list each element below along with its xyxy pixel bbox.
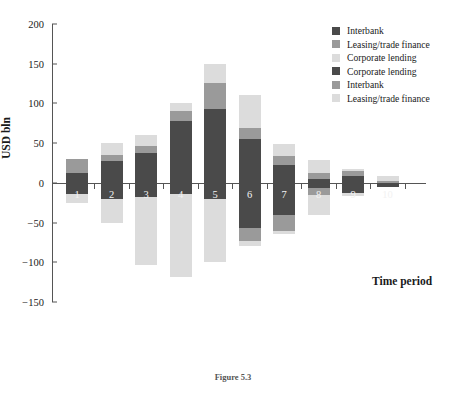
y-tick-mark bbox=[52, 63, 57, 64]
bar-column[interactable]: 1 bbox=[66, 24, 88, 302]
y-tick-label: 150 bbox=[28, 58, 44, 69]
legend-label: Corporate lending bbox=[347, 52, 417, 63]
x-tick-mark bbox=[232, 183, 233, 189]
bar-segment[interactable] bbox=[377, 176, 399, 182]
bar-column[interactable]: 8 bbox=[308, 24, 330, 302]
bar-category-label: 2 bbox=[101, 190, 123, 201]
bar-category-label: 6 bbox=[239, 190, 261, 201]
y-tick-label: −150 bbox=[22, 297, 44, 308]
bar-segment[interactable] bbox=[273, 144, 295, 156]
y-tick-label: 0 bbox=[39, 177, 44, 188]
bar-category-label: 7 bbox=[273, 190, 295, 201]
bar-segment[interactable] bbox=[66, 159, 88, 173]
bar-segment[interactable] bbox=[342, 169, 364, 171]
y-axis-line bbox=[52, 24, 53, 302]
bar-segment[interactable] bbox=[204, 199, 226, 263]
bar-segment[interactable] bbox=[135, 135, 157, 145]
bar-segment[interactable] bbox=[66, 173, 88, 183]
chart-figure: USD bln Time period 200150100500−50−100−… bbox=[0, 0, 466, 397]
bar-segment[interactable] bbox=[170, 103, 192, 111]
bar-category-label: 5 bbox=[204, 190, 226, 201]
bar-segment[interactable] bbox=[135, 146, 157, 154]
bar-category-label: 1 bbox=[66, 190, 88, 201]
x-tick-mark bbox=[129, 183, 130, 189]
bar-category-label: 10 bbox=[377, 190, 399, 201]
y-tick-mark bbox=[52, 143, 57, 144]
bar-segment[interactable] bbox=[170, 121, 192, 183]
legend-label: Interbank bbox=[347, 79, 384, 90]
x-tick-mark bbox=[198, 183, 199, 189]
bar-segment[interactable] bbox=[239, 139, 261, 183]
bar-segment[interactable] bbox=[308, 173, 330, 179]
bar-segment[interactable] bbox=[204, 109, 226, 183]
bar-segment[interactable] bbox=[101, 199, 123, 224]
x-tick-mark bbox=[336, 183, 337, 189]
bar-segment[interactable] bbox=[204, 83, 226, 109]
y-axis-title: USD bln bbox=[0, 117, 12, 159]
bar-segment[interactable] bbox=[342, 176, 364, 183]
chart-legend: InterbankLeasing/trade financeCorporate … bbox=[332, 24, 464, 105]
x-tick-mark bbox=[405, 183, 406, 189]
y-tick-label: 200 bbox=[28, 19, 44, 30]
x-tick-mark bbox=[370, 183, 371, 189]
legend-item[interactable]: Leasing/trade finance bbox=[332, 92, 464, 106]
legend-swatch-icon bbox=[332, 94, 340, 102]
bar-segment[interactable] bbox=[135, 197, 157, 265]
bar-segment[interactable] bbox=[239, 241, 261, 246]
legend-label: Leasing/trade finance bbox=[347, 93, 430, 104]
bar-segment[interactable] bbox=[101, 143, 123, 155]
bar-segment[interactable] bbox=[273, 215, 295, 232]
y-tick-mark bbox=[52, 222, 57, 223]
legend-item[interactable]: Leasing/trade finance bbox=[332, 38, 464, 52]
bar-column[interactable]: 5 bbox=[204, 24, 226, 302]
bar-column[interactable]: 2 bbox=[101, 24, 123, 302]
y-tick-mark bbox=[52, 103, 57, 104]
legend-swatch-icon bbox=[332, 67, 340, 75]
bar-column[interactable]: 3 bbox=[135, 24, 157, 302]
bar-category-label: 9 bbox=[342, 190, 364, 201]
bar-segment[interactable] bbox=[273, 231, 295, 233]
y-tick-label: 50 bbox=[34, 138, 45, 149]
y-tick-mark bbox=[52, 24, 57, 25]
y-tick-label: −100 bbox=[22, 257, 44, 268]
bar-column[interactable]: 6 bbox=[239, 24, 261, 302]
figure-caption: Figure 5.3 bbox=[0, 372, 466, 382]
bar-segment[interactable] bbox=[239, 95, 261, 128]
legend-label: Corporate lending bbox=[347, 66, 417, 77]
legend-item[interactable]: Corporate lending bbox=[332, 65, 464, 79]
bar-segment[interactable] bbox=[273, 165, 295, 182]
bar-segment[interactable] bbox=[204, 64, 226, 83]
bar-segment[interactable] bbox=[101, 155, 123, 161]
legend-item[interactable]: Corporate lending bbox=[332, 51, 464, 65]
y-tick-label: −50 bbox=[28, 217, 44, 228]
bar-segment[interactable] bbox=[239, 128, 261, 139]
legend-swatch-icon bbox=[332, 40, 340, 48]
x-tick-mark bbox=[163, 183, 164, 189]
legend-label: Leasing/trade finance bbox=[347, 39, 430, 50]
bar-segment[interactable] bbox=[273, 156, 295, 166]
legend-item[interactable]: Interbank bbox=[332, 78, 464, 92]
bar-segment[interactable] bbox=[342, 171, 364, 176]
bar-segment[interactable] bbox=[308, 160, 330, 174]
legend-item[interactable]: Interbank bbox=[332, 24, 464, 38]
bar-segment[interactable] bbox=[239, 228, 261, 241]
bar-segment[interactable] bbox=[135, 153, 157, 182]
y-tick-mark bbox=[52, 182, 57, 183]
legend-swatch-icon bbox=[332, 81, 340, 89]
legend-swatch-icon bbox=[332, 54, 340, 62]
bar-column[interactable]: 7 bbox=[273, 24, 295, 302]
x-tick-mark bbox=[267, 183, 268, 189]
legend-swatch-icon bbox=[332, 27, 340, 35]
bar-segment[interactable] bbox=[170, 194, 192, 277]
bar-segment[interactable] bbox=[377, 183, 399, 187]
x-tick-mark bbox=[94, 183, 95, 189]
y-tick-mark bbox=[52, 262, 57, 263]
x-tick-mark bbox=[301, 183, 302, 189]
bar-segment[interactable] bbox=[101, 161, 123, 183]
legend-label: Interbank bbox=[347, 25, 384, 36]
bar-segment[interactable] bbox=[170, 111, 192, 121]
y-tick-mark bbox=[52, 302, 57, 303]
bar-category-label: 8 bbox=[308, 190, 330, 201]
bar-category-label: 3 bbox=[135, 190, 157, 201]
bar-column[interactable]: 4 bbox=[170, 24, 192, 302]
